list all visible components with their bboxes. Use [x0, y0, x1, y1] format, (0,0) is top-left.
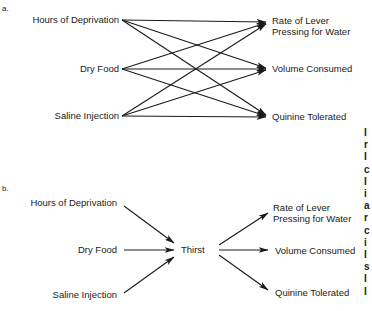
panel-b-arrows	[124, 206, 268, 293]
arrow-icon	[219, 255, 268, 290]
arrow-icon	[124, 206, 174, 243]
panel-a-arrows	[122, 20, 266, 117]
arrow-icon	[219, 213, 268, 245]
arrow-icon	[122, 20, 266, 68]
arrow-icon	[122, 23, 266, 69]
arrow-icon	[124, 257, 174, 293]
arrow-icon	[122, 20, 266, 115]
arrow-icon	[122, 24, 266, 116]
arrow-icon	[122, 116, 266, 117]
arrow-icon	[122, 20, 266, 22]
